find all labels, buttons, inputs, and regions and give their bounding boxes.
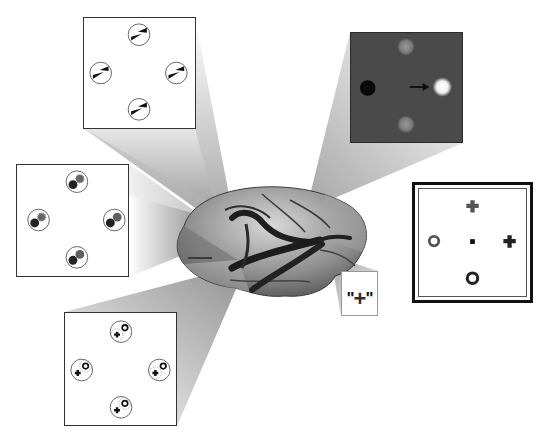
brain-surface <box>170 180 370 305</box>
panel-dot-array <box>16 164 129 277</box>
dim-target-top <box>397 38 415 56</box>
bright-target <box>433 77 453 97</box>
stimulus-right <box>166 62 188 84</box>
fixation-square <box>470 239 475 244</box>
panel-symbol-display <box>412 182 533 303</box>
cross-right <box>503 235 515 247</box>
stimulus-left <box>71 359 93 381</box>
figure: "+" <box>0 0 547 440</box>
fixation-dot <box>360 80 376 96</box>
panel-arrow-array <box>83 17 196 129</box>
symbol-label: "+" <box>342 284 377 310</box>
cross-top <box>466 200 478 212</box>
stimulus-top <box>128 24 150 46</box>
stimulus-top <box>110 321 132 343</box>
stimulus-left <box>90 62 112 84</box>
close-quote: " <box>365 289 372 308</box>
ring-bottom <box>467 273 477 283</box>
stimulus-left <box>28 209 50 231</box>
panel-cross-ring-array <box>64 312 177 426</box>
right-arrow-icon <box>410 83 430 91</box>
panel-saccade-targets <box>350 32 463 143</box>
stimulus-bottom <box>128 99 150 121</box>
symbol-label-box: "+" <box>341 271 378 316</box>
stimulus-bottom <box>66 247 88 269</box>
ring-left <box>429 236 439 246</box>
dim-target-bottom <box>397 115 415 133</box>
stimulus-right <box>103 209 125 231</box>
stimulus-right <box>148 359 170 381</box>
stimulus-bottom <box>110 397 132 419</box>
plus-symbol: + <box>354 286 366 311</box>
stimulus-top <box>66 171 88 193</box>
open-quote: " <box>347 289 354 308</box>
